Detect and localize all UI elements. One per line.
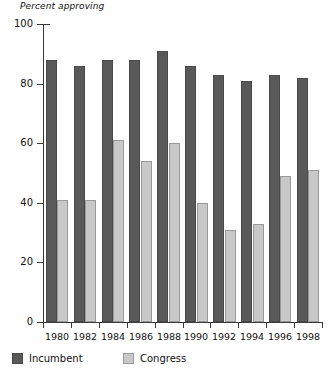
legend-label-congress: Congress <box>140 353 186 364</box>
bar-incumbent-1994 <box>241 81 252 322</box>
bar-congress-1998 <box>308 170 319 322</box>
legend-label-incumbent: Incumbent <box>29 353 83 364</box>
plot-area <box>43 24 322 322</box>
y-axis-tick-label: 20 <box>9 256 33 267</box>
bar-incumbent-1986 <box>129 60 140 322</box>
bar-congress-1990 <box>197 203 208 322</box>
x-axis-tick <box>183 322 184 328</box>
bar-incumbent-1980 <box>46 60 57 322</box>
y-axis-tick-label: 100 <box>9 18 33 29</box>
legend-item-congress: Congress <box>123 353 186 364</box>
y-axis-tick-label: 0 <box>9 316 33 327</box>
x-axis-tick <box>43 322 44 328</box>
bar-incumbent-1992 <box>213 75 224 322</box>
bar-congress-1986 <box>141 161 152 322</box>
y-axis-title: Percent approving <box>20 1 104 11</box>
bar-congress-1996 <box>280 176 291 322</box>
bar-congress-1988 <box>169 143 180 322</box>
bar-congress-1992 <box>225 230 236 322</box>
bar-incumbent-1996 <box>269 75 280 322</box>
x-axis-tick <box>127 322 128 328</box>
bar-incumbent-1982 <box>74 66 85 322</box>
x-axis-tick-label: 1998 <box>291 331 325 342</box>
y-axis-tick-label: 80 <box>9 78 33 89</box>
x-axis-tick <box>71 322 72 328</box>
bar-chart: Percent approving 020406080100 198019821… <box>0 0 332 376</box>
legend-swatch-incumbent-icon <box>12 353 23 364</box>
x-axis-tick <box>210 322 211 328</box>
legend-item-incumbent: Incumbent <box>12 353 83 364</box>
bar-incumbent-1998 <box>297 78 308 322</box>
bar-congress-1980 <box>57 200 68 322</box>
x-axis-tick <box>155 322 156 328</box>
x-axis-tick <box>238 322 239 328</box>
bar-incumbent-1990 <box>185 66 196 322</box>
legend-swatch-congress-icon <box>123 353 134 364</box>
x-axis-tick <box>322 322 323 328</box>
y-axis-tick-label: 60 <box>9 137 33 148</box>
bar-congress-1984 <box>113 140 124 322</box>
x-axis-tick <box>99 322 100 328</box>
bar-congress-1982 <box>85 200 96 322</box>
x-axis-tick <box>266 322 267 328</box>
bar-congress-1994 <box>253 224 264 322</box>
x-axis-tick <box>294 322 295 328</box>
bar-incumbent-1988 <box>157 51 168 322</box>
bar-incumbent-1984 <box>102 60 113 322</box>
y-axis-tick-label: 40 <box>9 197 33 208</box>
